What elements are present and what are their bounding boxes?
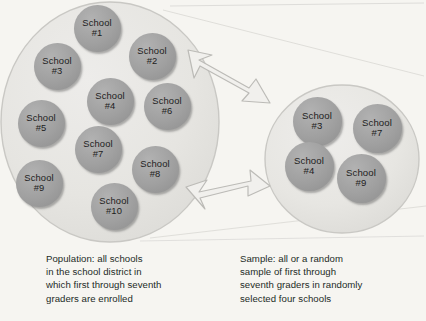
population-school-9: School#9 (16, 160, 63, 207)
population-school-6: School#6 (144, 83, 191, 130)
school-number-label: #7 (372, 128, 383, 138)
population-school-5: School#5 (18, 100, 65, 147)
population-school-4: School#4 (87, 78, 134, 125)
population-school-8: School#8 (132, 146, 179, 193)
diagram-stage: School#1School#2School#3School#4School#5… (0, 0, 426, 321)
sample-school-3: School#3 (293, 97, 342, 146)
sample-caption: Sample: all or a random sample of first … (240, 252, 425, 305)
sample-school-9: School#9 (337, 154, 386, 203)
school-number-label: #3 (312, 121, 323, 131)
population-school-3: School#3 (34, 43, 81, 90)
sample-school-4: School#4 (285, 142, 334, 191)
school-number-label: #1 (92, 28, 103, 38)
school-number-label: #9 (34, 183, 45, 193)
school-number-label: #4 (304, 166, 315, 176)
school-number-label: #8 (150, 169, 161, 179)
population-school-10: School#10 (91, 183, 138, 230)
school-number-label: #2 (147, 56, 158, 66)
school-number-label: #6 (162, 106, 173, 116)
school-number-label: #9 (356, 178, 367, 188)
school-number-label: #7 (93, 149, 104, 159)
school-number-label: #4 (105, 101, 116, 111)
population-school-7: School#7 (75, 126, 122, 173)
school-number-label: #10 (106, 206, 122, 216)
population-school-2: School#2 (129, 33, 176, 80)
school-number-label: #3 (52, 66, 63, 76)
population-caption: Population: all schools in the school di… (46, 252, 226, 305)
sample-school-7: School#7 (353, 104, 402, 153)
school-number-label: #5 (36, 123, 47, 133)
population-school-1: School#1 (74, 5, 121, 52)
